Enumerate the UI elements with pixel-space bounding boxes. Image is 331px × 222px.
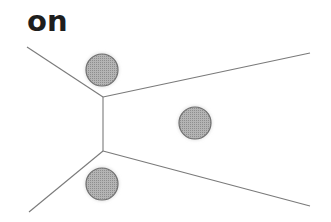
- site-right: [178, 106, 213, 141]
- boundary-edges: [27, 47, 310, 212]
- boundary-edge: [103, 151, 310, 206]
- boundary-edge: [103, 53, 310, 97]
- voronoi-diagram: [0, 0, 331, 222]
- site-bottom: [85, 167, 120, 202]
- seed-points: [85, 53, 213, 202]
- site-top: [85, 53, 120, 88]
